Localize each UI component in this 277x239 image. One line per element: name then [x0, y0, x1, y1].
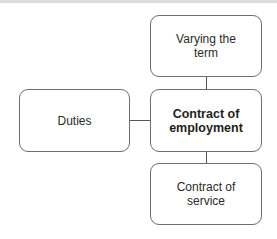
node-duties: Duties [19, 89, 130, 152]
node-label-line: term [176, 46, 236, 60]
connector-varying-to-employment [206, 77, 207, 89]
node-label-line: Varying the [176, 32, 236, 46]
node-label-line: Duties [57, 114, 91, 128]
node-contract-of-service: Contract of service [150, 163, 262, 225]
node-contract-of-employment: Contract of employment [150, 89, 262, 152]
connector-duties-to-employment [130, 120, 150, 121]
node-label-line: employment [169, 121, 243, 135]
node-label-line: Contract of [169, 107, 243, 121]
connector-employment-to-service [206, 152, 207, 163]
node-label-line: Contract of [177, 180, 236, 194]
top-border-strip [0, 0, 277, 3]
node-label-line: service [177, 194, 236, 208]
node-varying-the-term: Varying the term [150, 15, 262, 77]
